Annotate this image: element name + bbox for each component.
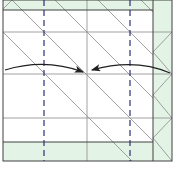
right-color-strip xyxy=(153,0,172,161)
paper xyxy=(3,0,172,161)
origami-diagram xyxy=(0,0,179,172)
